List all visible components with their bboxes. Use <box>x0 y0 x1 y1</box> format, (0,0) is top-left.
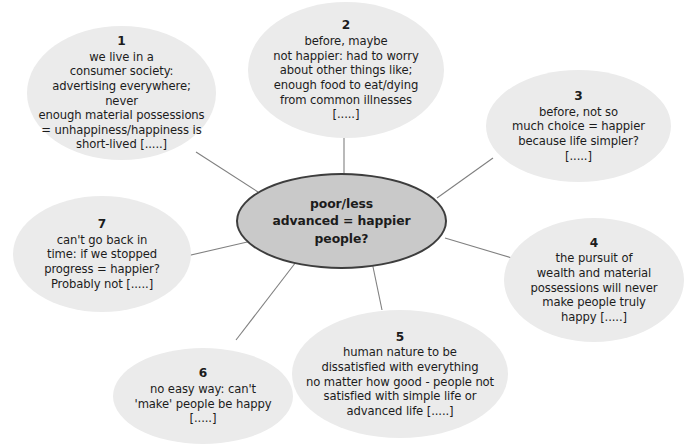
branch-text-6: no easy way: can't 'make' people be happ… <box>135 382 272 426</box>
connector-center-to-6 <box>236 262 296 340</box>
branch-number-4: 4 <box>590 236 598 252</box>
branch-number-5: 5 <box>396 330 404 346</box>
branch-node-7[interactable]: 7 can't go back in time: if we stopped p… <box>13 196 191 312</box>
connector-center-to-5 <box>372 262 382 310</box>
branch-number-3: 3 <box>574 89 582 105</box>
branch-text-1: we live in a consumer society: advertisi… <box>37 50 206 152</box>
branch-node-5[interactable]: 5 human nature to be dissatisfied with e… <box>292 310 508 438</box>
branch-node-4[interactable]: 4 the pursuit of wealth and material pos… <box>504 218 684 342</box>
branch-node-2[interactable]: 2 before, maybe not happier: had to worr… <box>248 2 444 138</box>
branch-text-3: before, not so much choice = happier bec… <box>512 105 645 163</box>
branch-text-2: before, maybe not happier: had to worry … <box>273 34 418 122</box>
branch-number-1: 1 <box>117 34 125 50</box>
branch-number-2: 2 <box>342 18 350 34</box>
branch-number-6: 6 <box>199 366 207 382</box>
connector-center-to-3 <box>437 158 493 198</box>
branch-number-7: 7 <box>98 217 106 233</box>
connector-center-to-1 <box>196 152 258 192</box>
branch-node-1[interactable]: 1 we live in a consumer society: adverti… <box>27 26 216 160</box>
central-topic-node[interactable]: poor/less advanced = happier people? <box>236 173 447 269</box>
central-topic-text: poor/less advanced = happier people? <box>272 195 410 248</box>
mind-map-canvas: poor/less advanced = happier people? 1 w… <box>0 0 684 445</box>
branch-text-5: human nature to be dissatisfied with eve… <box>306 345 494 418</box>
branch-text-4: the pursuit of wealth and material posse… <box>530 251 657 324</box>
connector-center-to-4 <box>445 238 512 258</box>
branch-text-7: can't go back in time: if we stopped pro… <box>44 233 160 291</box>
branch-node-6[interactable]: 6 no easy way: can't 'make' people be ha… <box>113 348 293 444</box>
branch-node-3[interactable]: 3 before, not so much choice = happier b… <box>486 70 671 182</box>
